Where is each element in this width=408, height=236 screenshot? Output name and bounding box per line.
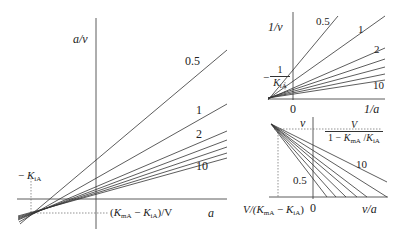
rt-line-label-2: 2 xyxy=(374,44,380,55)
left-plot-axes xyxy=(17,18,227,229)
rt-line-label-1: 1 xyxy=(358,24,364,35)
left-x-annotation: (KmA − KiA)/V xyxy=(110,207,172,220)
left-plot-guides xyxy=(31,178,108,213)
rb-y-annotation: V 1 − KmA /KiA xyxy=(325,120,383,145)
rt-x-label: 1/a xyxy=(364,103,379,115)
rt-line-label-0.5: 0.5 xyxy=(316,16,330,27)
left-line-label-0.5: 0.5 xyxy=(185,55,200,67)
neg-kia-label: − KiA xyxy=(18,170,41,183)
rt-y-label: 1/v xyxy=(268,21,283,33)
rb-origin: 0 xyxy=(310,202,316,214)
rb-x-label: v/a xyxy=(362,203,377,215)
rb-y-label: v xyxy=(300,117,305,129)
rt-origin: 0 xyxy=(290,103,296,115)
left-y-label: a/v xyxy=(73,33,88,45)
rt-line-label-10: 10 xyxy=(373,80,384,91)
left-line-label-2: 2 xyxy=(196,128,202,140)
rt-intercept-fraction: 1 KiA xyxy=(270,65,290,90)
rb-x-annotation: V/(KmA − KiA) xyxy=(243,204,304,217)
left-line-label-1: 1 xyxy=(196,104,202,116)
diagram-canvas xyxy=(0,0,408,236)
left-line-label-10: 10 xyxy=(196,160,208,172)
left-x-label: a xyxy=(208,207,214,219)
rb-line-label-0.5: 0.5 xyxy=(293,175,307,186)
rt-intercept-minus: − xyxy=(263,72,269,83)
rb-line-label-10: 10 xyxy=(356,159,367,170)
